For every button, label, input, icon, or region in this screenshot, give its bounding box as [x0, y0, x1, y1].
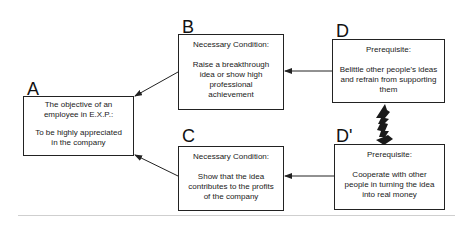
arrow-b-to-a — [135, 72, 178, 96]
arrow-c-to-a — [135, 155, 178, 176]
connector-layer — [0, 0, 469, 230]
conflict-lightning-icon — [376, 104, 393, 145]
bottom-rule — [18, 215, 455, 216]
